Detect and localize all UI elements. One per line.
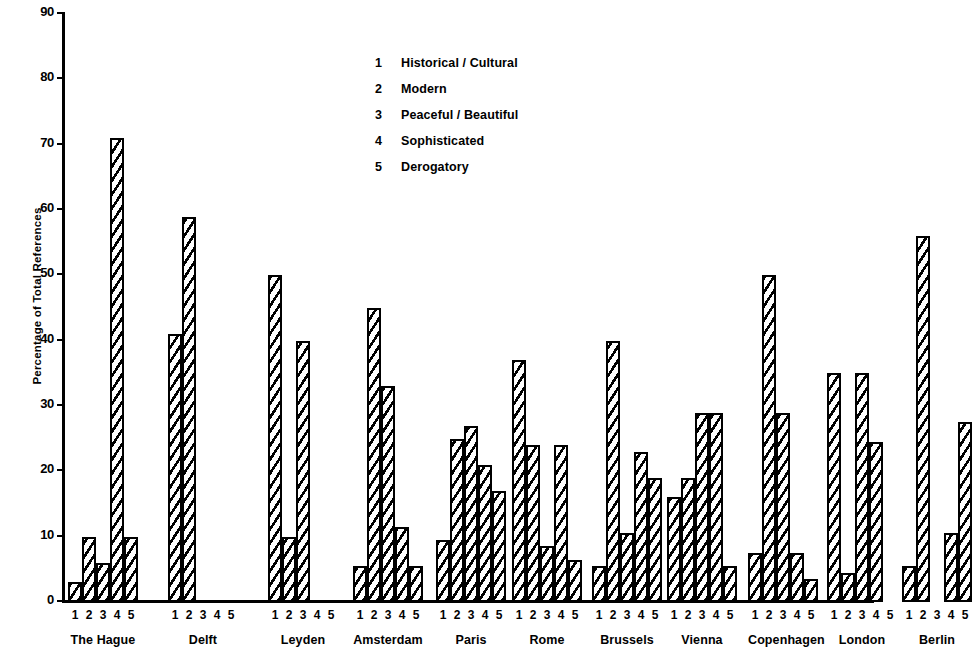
- x-tick-label: 4: [634, 608, 648, 622]
- x-tick-label: 2: [450, 608, 464, 622]
- x-tick-label: 2: [762, 608, 776, 622]
- bar: [709, 413, 723, 602]
- x-tick-label: 3: [464, 608, 478, 622]
- x-tick-label: 2: [82, 608, 96, 622]
- bar: [695, 413, 709, 602]
- bar: [96, 563, 110, 602]
- x-tick-label: 1: [512, 608, 526, 622]
- x-tick-label: 5: [409, 608, 423, 622]
- x-tick-label: 2: [681, 608, 695, 622]
- x-tick-label: 2: [841, 608, 855, 622]
- bar: [110, 138, 124, 602]
- bar: [182, 217, 196, 602]
- x-tick-labels: 12345: [168, 608, 238, 622]
- bar-group-bars: [268, 13, 338, 602]
- bar: [667, 497, 681, 602]
- bar: [648, 478, 662, 602]
- x-tick-label: 3: [776, 608, 790, 622]
- x-tick-label: 3: [196, 608, 210, 622]
- bar: [762, 275, 776, 602]
- bar: [748, 553, 762, 602]
- x-group-label: Delft: [168, 633, 238, 647]
- y-tick-label: 60: [20, 200, 54, 215]
- x-tick-label: 3: [855, 608, 869, 622]
- x-group-label: Copenhagen: [748, 633, 818, 647]
- x-tick-label: 5: [958, 608, 972, 622]
- bar: [82, 537, 96, 602]
- x-group-label: Leyden: [268, 633, 338, 647]
- bar: [450, 439, 464, 602]
- x-tick-labels: 12345: [268, 608, 338, 622]
- x-tick-label: 1: [827, 608, 841, 622]
- bar: [568, 560, 582, 602]
- x-group-label: Rome: [512, 633, 582, 647]
- bar-group-bars: [592, 13, 662, 602]
- x-tick-label: 1: [436, 608, 450, 622]
- x-tick-label: 4: [944, 608, 958, 622]
- x-group-label: Amsterdam: [353, 633, 423, 647]
- x-tick-label: 4: [310, 608, 324, 622]
- bar-group-bars: [827, 13, 897, 602]
- x-tick-labels: 12345: [512, 608, 582, 622]
- bar-group-bars: [902, 13, 972, 602]
- bar: [841, 573, 855, 602]
- x-tick-label: 4: [478, 608, 492, 622]
- y-tick-label: 90: [20, 4, 54, 19]
- x-tick-label: 4: [210, 608, 224, 622]
- bar: [554, 445, 568, 602]
- x-tick-label: 2: [916, 608, 930, 622]
- bar: [902, 566, 916, 602]
- y-tick-label: 70: [20, 135, 54, 150]
- bar: [606, 341, 620, 602]
- bar: [681, 478, 695, 602]
- x-tick-label: 5: [492, 608, 506, 622]
- bar: [168, 334, 182, 602]
- x-tick-label: 1: [353, 608, 367, 622]
- bar: [855, 373, 869, 602]
- y-tick-label: 40: [20, 331, 54, 346]
- x-tick-label: 3: [620, 608, 634, 622]
- bar: [916, 236, 930, 602]
- y-tick-label: 10: [20, 527, 54, 542]
- x-tick-labels: 12345: [748, 608, 818, 622]
- x-tick-label: 3: [381, 608, 395, 622]
- x-tick-label: 1: [748, 608, 762, 622]
- x-tick-label: 5: [648, 608, 662, 622]
- x-group-label: London: [827, 633, 897, 647]
- bar-group-bars: [748, 13, 818, 602]
- x-group-label: Brussels: [592, 633, 662, 647]
- bar: [827, 373, 841, 602]
- bar: [592, 566, 606, 602]
- x-group-label: The Hague: [68, 633, 138, 647]
- x-tick-label: 2: [526, 608, 540, 622]
- x-tick-label: 1: [68, 608, 82, 622]
- x-group-label: Paris: [436, 633, 506, 647]
- y-tick-label: 50: [20, 265, 54, 280]
- x-tick-labels: 12345: [68, 608, 138, 622]
- x-tick-label: 5: [804, 608, 818, 622]
- bar: [478, 465, 492, 602]
- bar: [492, 491, 506, 602]
- x-tick-label: 1: [592, 608, 606, 622]
- x-tick-label: 1: [168, 608, 182, 622]
- x-tick-label: 3: [695, 608, 709, 622]
- bar: [464, 426, 478, 602]
- x-tick-labels: 12345: [353, 608, 423, 622]
- x-group-label: Vienna: [667, 633, 737, 647]
- x-tick-labels: 12345: [827, 608, 897, 622]
- bar-group-bars: [353, 13, 423, 602]
- bar-group-bars: [512, 13, 582, 602]
- x-tick-label: 5: [723, 608, 737, 622]
- bar: [804, 579, 818, 602]
- bar-group-bars: [68, 13, 138, 602]
- bar: [381, 386, 395, 602]
- x-tick-label: 2: [367, 608, 381, 622]
- x-tick-label: 4: [554, 608, 568, 622]
- bar: [540, 546, 554, 602]
- bar: [353, 566, 367, 602]
- bar: [296, 341, 310, 602]
- x-tick-label: 3: [296, 608, 310, 622]
- y-tick-label: 0: [20, 592, 54, 607]
- bar: [869, 442, 883, 602]
